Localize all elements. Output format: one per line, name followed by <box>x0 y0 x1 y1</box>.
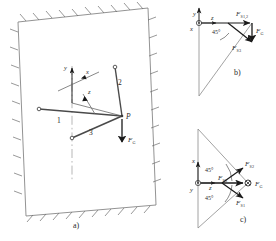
panel-c-force-fg-label: F G <box>254 180 263 189</box>
rod-1-label: 1 <box>57 116 61 125</box>
axis-x-label-b: x <box>189 25 193 32</box>
rod-1-support <box>37 107 41 111</box>
rod-3-label: 3 <box>89 128 93 137</box>
panel-b-force-fs12-label: F S1,2 <box>235 10 248 20</box>
panel-c-upper-side <box>198 129 248 183</box>
panel-c-force-fs2-label: F S2 <box>244 160 254 169</box>
panel-b-hypotenuse <box>199 23 252 96</box>
panel-c-force-fs3-label: F S3 <box>217 174 227 183</box>
hatch-right <box>148 17 161 182</box>
point-p-label: P <box>125 112 131 121</box>
panel-c-force-fs1-label: F S1 <box>235 199 245 208</box>
technical-diagram: y x z 1 2 3 P F G a) y z x 45° F S1,2 F <box>0 0 276 241</box>
weight-label-a-sub: G <box>133 140 136 145</box>
axis-y-label-b: y <box>192 10 196 17</box>
axis-y-label-c: y <box>189 186 193 193</box>
panel-b-angle-label: 45° <box>212 29 221 35</box>
panel-c-fs3-sub: S3 <box>223 178 227 183</box>
axis-x-line-a <box>58 72 99 91</box>
panel-b-force-fg-label: F G <box>255 27 264 36</box>
weight-label-a: F G <box>127 136 136 145</box>
hatch-left <box>10 29 22 194</box>
panel-a-wall <box>10 2 161 222</box>
panel-b-fg-sub: G <box>261 31 264 36</box>
rod-2-line <box>115 67 122 116</box>
panel-c-fg-sub: G <box>260 184 263 189</box>
axis-x-label-a: x <box>85 68 89 75</box>
axis-z-label-b: z <box>210 14 214 21</box>
panel-b-diagram <box>196 8 252 96</box>
rod-2-label: 2 <box>118 78 122 87</box>
axis-x-label-c: x <box>191 157 195 164</box>
panel-c-fs2-sub: S2 <box>250 164 254 169</box>
panel-b-force-fs3-label: F S3 <box>231 44 241 53</box>
axis-y-label-a: y <box>63 64 67 71</box>
panel-a-truss <box>37 65 123 180</box>
panel-b-angle-arc <box>220 33 229 40</box>
rod-2-support <box>113 65 117 69</box>
panel-a-axes <box>58 68 99 114</box>
panel-a-caption: a) <box>73 221 80 230</box>
wall-outline <box>18 8 156 216</box>
panel-c-angle-label-lower: 45° <box>205 195 214 201</box>
rod-3-line <box>72 116 122 138</box>
panel-c-caption: c) <box>240 215 247 224</box>
axis-z-label-c: z <box>208 184 212 191</box>
panel-c-axis-y-dot-icon <box>197 182 199 184</box>
joint-point-p <box>121 115 124 118</box>
panel-b-fs3-sub: S3 <box>237 48 241 53</box>
panel-c-fs1-sub: S1 <box>241 203 245 208</box>
panel-b-caption: b) <box>234 68 241 77</box>
figure-root: y x z 1 2 3 P F G a) y z x 45° F S1,2 F <box>0 0 276 241</box>
axis-z-arrow-a <box>82 96 88 101</box>
panel-b-axis-x-dot-icon <box>198 22 200 24</box>
panel-c-angle-label-upper: 45° <box>205 167 214 173</box>
rod-3-support <box>70 136 74 140</box>
axis-x-arrow-a <box>81 75 87 79</box>
axis-z-label-a: z <box>87 88 91 95</box>
panel-b-fs12-sub: S1,2 <box>241 14 249 20</box>
hatch-top <box>20 2 143 21</box>
